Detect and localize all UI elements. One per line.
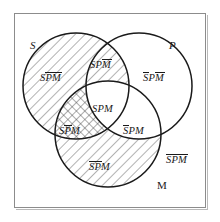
region-label-p-and-m: SPM: [123, 126, 144, 137]
region-term-p-bar: P: [64, 126, 71, 137]
circle-label-p: P: [169, 40, 176, 51]
venn-diagram-figure: S P M SPM SPM SPM SPM SPM SPM SPM SPM: [0, 0, 220, 222]
circle-label-s: S: [30, 40, 36, 51]
region-label-m-only: SPM: [89, 162, 110, 173]
region-term-m-bar: M: [102, 60, 111, 71]
region-term-m-bar: M: [52, 73, 61, 84]
region-term-m-bar: M: [155, 73, 164, 84]
region-term-p-bar: P: [94, 162, 101, 173]
region-term-m-bar: M: [178, 155, 187, 166]
region-label-s-and-p: SPM: [90, 60, 111, 71]
region-term-m: M: [101, 161, 110, 172]
region-term-m: M: [71, 125, 80, 136]
region-term-s-bar: S: [143, 73, 148, 84]
region-label-s-and-m: SPM: [59, 126, 80, 137]
region-term-s-bar: S: [123, 126, 128, 137]
region-label-center: SPM: [92, 104, 113, 115]
region-term-m: M: [104, 103, 113, 114]
region-term-m: M: [135, 125, 144, 136]
region-label-p-only: SPM: [143, 73, 164, 84]
region-label-outside-all: SPM: [166, 155, 187, 166]
circle-label-m: M: [157, 180, 167, 191]
region-label-s-only: SPM: [40, 73, 61, 84]
